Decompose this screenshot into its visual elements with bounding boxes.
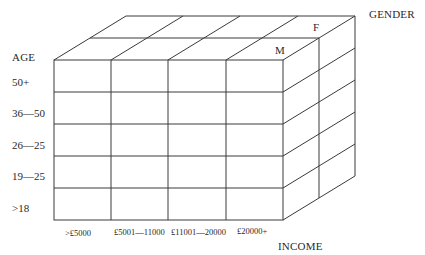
income-label-11001-20000: £11001—20000 xyxy=(171,228,226,237)
age-label-26-25: 26—25 xyxy=(12,140,45,151)
age-axis-title: AGE xyxy=(12,52,35,63)
gender-axis-title: GENDER xyxy=(369,9,415,20)
gender-label-male: M xyxy=(275,45,285,56)
gender-label-female: F xyxy=(313,22,319,33)
age-label-36-50: 36—50 xyxy=(12,108,45,119)
income-label-20000plus: £20000+ xyxy=(237,227,267,236)
age-label-50plus: 50+ xyxy=(12,77,29,88)
data-cube xyxy=(0,0,425,255)
top-face xyxy=(54,16,355,60)
age-label-19-25: 19—25 xyxy=(12,171,45,182)
income-axis-title: INCOME xyxy=(278,241,323,252)
age-label-under-18: >18 xyxy=(12,203,29,214)
income-label-5001-11000: £5001—11000 xyxy=(114,228,165,237)
income-label-under-5000: >£5000 xyxy=(65,229,91,238)
right-face xyxy=(283,16,355,220)
